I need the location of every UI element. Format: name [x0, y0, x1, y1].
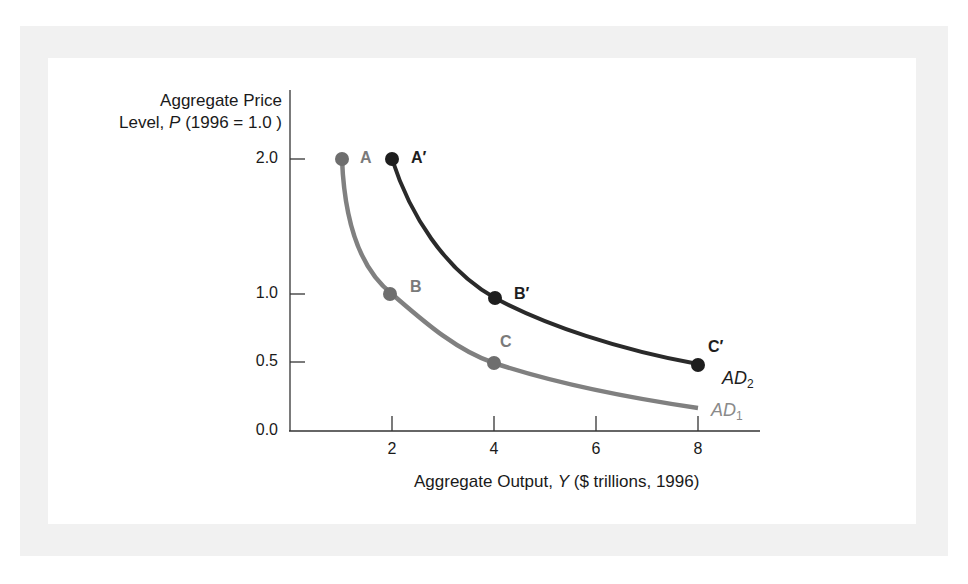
point-c-label: C [500, 333, 512, 351]
x-tick-label-2: 2 [377, 440, 407, 458]
y-axis-label-suffix: (1996 = 1.0 ) [180, 113, 282, 132]
point-a-prime-label: A′ [411, 149, 426, 167]
ad1-curve [342, 159, 698, 408]
x-axis-variable: Y [558, 472, 569, 491]
chart-plot [0, 0, 968, 584]
ad1-label: AD1 [711, 400, 743, 423]
x-axis-label-prefix: Aggregate Output, [414, 472, 558, 491]
y-axis-label-line2: Level, P (1996 = 1.0 ) [119, 112, 282, 133]
ad2-label-sub: 2 [747, 377, 754, 391]
ad2-label: AD2 [722, 368, 754, 391]
point-a-marker [335, 152, 349, 166]
x-axis-label-suffix: ($ trillions, 1996) [569, 472, 699, 491]
ad1-label-main: AD [711, 400, 736, 420]
ad1-label-sub: 1 [736, 409, 743, 423]
y-tick-label-2: 2.0 [228, 149, 278, 167]
x-tick-label-4: 4 [479, 440, 509, 458]
point-b-label: B [410, 278, 422, 296]
y-axis-label-line1: Aggregate Price [160, 90, 282, 111]
x-tick-label-8: 8 [683, 440, 713, 458]
y-tick-label-05: 0.5 [228, 352, 278, 370]
x-tick-label-6: 6 [581, 440, 611, 458]
point-b-marker [383, 287, 397, 301]
point-a-prime-marker [385, 152, 399, 166]
y-axis-label-prefix: Level, [119, 113, 169, 132]
y-tick-label-1: 1.0 [228, 284, 278, 302]
point-c-prime-label: C′ [708, 338, 723, 356]
point-c-marker [487, 356, 501, 370]
point-a-label: A [360, 149, 372, 167]
ad2-label-main: AD [722, 368, 747, 388]
x-axis-label: Aggregate Output, Y ($ trillions, 1996) [414, 472, 699, 492]
y-tick-label-0: 0.0 [228, 421, 278, 439]
point-b-prime-marker [488, 291, 502, 305]
point-b-prime-label: B′ [514, 285, 529, 303]
y-axis-variable: P [169, 113, 180, 132]
point-c-prime-marker [691, 358, 705, 372]
